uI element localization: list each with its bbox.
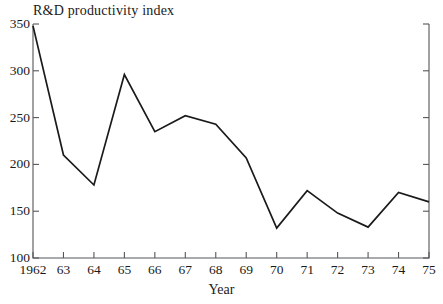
x-axis-ticks	[33, 252, 429, 258]
x-tick-label: 63	[57, 263, 71, 277]
x-tick-label: 1962	[20, 263, 47, 277]
x-tick-label: 72	[331, 263, 345, 277]
x-tick-label: 66	[148, 263, 162, 277]
data-series-line	[33, 26, 429, 228]
y-tick-label: 250	[0, 111, 30, 125]
x-tick-label: 65	[118, 263, 132, 277]
x-tick-label: 64	[87, 263, 101, 277]
x-tick-label: 69	[239, 263, 253, 277]
x-tick-label: 67	[179, 263, 193, 277]
y-tick-label: 200	[0, 157, 30, 171]
x-tick-label: 70	[270, 263, 284, 277]
y-tick-label: 150	[0, 204, 30, 218]
x-tick-label: 71	[300, 263, 314, 277]
y-tick-label: 350	[0, 17, 30, 31]
x-tick-label: 68	[209, 263, 223, 277]
plot-area	[0, 0, 443, 304]
chart-figure: R&D productivity index 10015020025030035…	[0, 0, 443, 304]
y-tick-label: 300	[0, 64, 30, 78]
x-tick-label: 74	[392, 263, 406, 277]
x-tick-label: 75	[422, 263, 436, 277]
x-tick-label: 73	[361, 263, 375, 277]
x-axis-title: Year	[0, 282, 443, 298]
